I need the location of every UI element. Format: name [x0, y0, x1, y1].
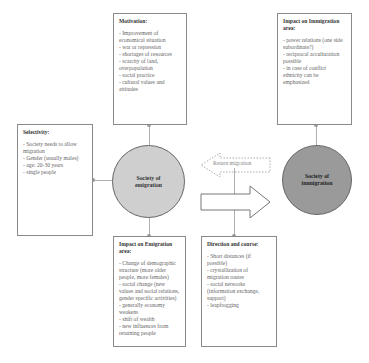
- list-item: - reciprocal acculturation possible: [283, 51, 346, 65]
- list-item: - age: 20-30 years: [23, 162, 87, 169]
- list-item: - shortages of resources: [119, 51, 181, 58]
- list-item: - social change (new values and social r…: [119, 281, 180, 302]
- list-item: - power relations (one side subordinate?…: [283, 37, 346, 51]
- society-emigration-label: Society of emigration: [129, 175, 169, 189]
- list-item: - social networks (information exchange,…: [207, 281, 271, 302]
- list-item: - crystallization of migration routes: [207, 267, 271, 281]
- direction-title: Direction and course:: [207, 241, 271, 248]
- return-migration-label: Return migration: [213, 160, 251, 166]
- connector-selectivity: [93, 180, 113, 181]
- list-item: - Society needs to allow migration: [23, 141, 87, 155]
- list-item: - leapfrogging: [207, 302, 271, 309]
- list-item: - new influences from returning people: [119, 323, 180, 337]
- society-immigration-node: Society of immigration: [282, 145, 352, 215]
- direction-box: Direction and course: - Short distances …: [201, 236, 277, 347]
- list-item: - scarcity of land, overpopulation: [119, 58, 181, 72]
- list-item: - war or repression: [119, 44, 181, 51]
- impact-emigration-title: Impact on Emigration area:: [119, 241, 180, 255]
- list-item: - Change of demographic structure (more …: [119, 260, 180, 281]
- connector-motivation: [149, 125, 150, 145]
- list-item: - in case of conflict ethnicity can be e…: [283, 65, 346, 86]
- list-item: - Improvement of economical situation: [119, 30, 181, 44]
- list-item: - cultural values and attitudes: [119, 79, 181, 93]
- impact-immigration-title: Impact on Immigration area:: [283, 18, 346, 32]
- list-item: - generally economy weakens: [119, 302, 180, 316]
- selectivity-box: Selectivity: - Society needs to allow mi…: [17, 124, 93, 236]
- impact-immigration-box: Impact on Immigration area: - power rela…: [277, 13, 352, 125]
- selectivity-title: Selectivity:: [23, 129, 87, 136]
- list-item: - Gender (usually males): [23, 155, 87, 162]
- connector-impact-immigration: [316, 125, 317, 145]
- list-item: - social practice: [119, 72, 181, 79]
- migration-block-arrow: [200, 185, 272, 219]
- society-emigration-node: Society of emigration: [112, 145, 185, 218]
- list-item: - shift of wealth: [119, 316, 180, 323]
- list-item: - Short distances (if possible): [207, 253, 271, 267]
- society-immigration-label: Society of immigration: [297, 173, 337, 187]
- motivation-title: Motivation:: [119, 18, 181, 25]
- motivation-box: Motivation: - Improvement of economical …: [113, 13, 187, 125]
- impact-emigration-box: Impact on Emigration area: - Change of d…: [113, 236, 186, 347]
- list-item: - single people: [23, 169, 87, 176]
